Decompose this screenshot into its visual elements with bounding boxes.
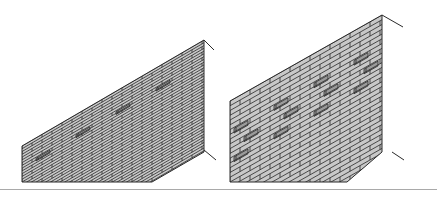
- edge-tick-top: [204, 40, 214, 50]
- brick-wall-diagram: [0, 0, 437, 198]
- edge-tick-bottom: [204, 150, 216, 160]
- edge-tick-top: [382, 15, 403, 27]
- brick-wall-left: [22, 34, 216, 198]
- brick-wall-right: [230, 5, 404, 198]
- edge-tick-bottom: [392, 152, 404, 160]
- divider-line: [0, 189, 437, 190]
